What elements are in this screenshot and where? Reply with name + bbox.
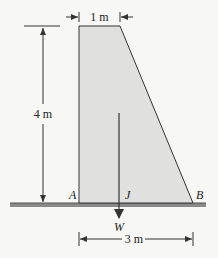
ground <box>10 203 206 207</box>
base-width-dimension: 3 m <box>79 232 193 246</box>
height-label: 4 m <box>34 107 53 121</box>
point-b-label: B <box>196 188 204 202</box>
weight-label: W <box>114 220 125 234</box>
top-width-dimension: 1 m <box>66 10 133 24</box>
base-width-label: 3 m <box>125 232 144 246</box>
dam-section <box>79 26 193 203</box>
top-width-label: 1 m <box>90 10 109 24</box>
point-j-label: J <box>125 188 131 202</box>
height-dimension: 4 m <box>24 26 60 202</box>
point-a-label: A <box>68 188 77 202</box>
dam-diagram: 1 m 4 m A J B W 3 m <box>0 0 218 258</box>
